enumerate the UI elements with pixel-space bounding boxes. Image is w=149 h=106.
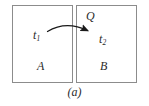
region-label-b: B [100,60,107,72]
t1-base: t [33,28,36,42]
thermodynamics-heat-transfer-figure: t1 t2 Q A B (a) [0,0,149,106]
t1-subscript: 1 [37,34,41,43]
temperature-label-t1: t1 [33,29,40,41]
figure-caption: (a) [0,86,149,98]
t2-base: t [99,32,102,46]
region-label-a: A [37,60,44,72]
t2-subscript: 2 [103,38,107,47]
heat-transfer-label-q: Q [86,10,95,22]
temperature-label-t2: t2 [99,33,106,45]
